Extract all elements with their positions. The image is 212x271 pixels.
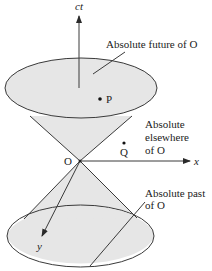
future-cone xyxy=(5,58,157,161)
origin-label: O xyxy=(64,155,72,167)
past-label-2: of O xyxy=(145,199,165,211)
past-label-1: Absolute past xyxy=(145,187,205,199)
light-cone-diagram: ct x y O P Q Absolute future of O Absolu… xyxy=(0,0,212,271)
point-p-label: P xyxy=(106,93,112,105)
origin-point xyxy=(79,160,82,163)
past-cone xyxy=(7,161,154,267)
elsewhere-label-2: elsewhere xyxy=(145,131,189,143)
future-cone-top xyxy=(5,58,157,118)
point-q-label: Q xyxy=(120,146,128,158)
y-axis-label: y xyxy=(36,240,42,252)
point-q xyxy=(122,141,125,144)
elsewhere-label-1: Absolute xyxy=(145,118,185,130)
ct-axis-label: ct xyxy=(75,0,84,12)
x-axis-label: x xyxy=(193,155,199,167)
elsewhere-label-3: of O xyxy=(145,144,165,156)
future-label: Absolute future of O xyxy=(106,38,197,50)
point-p xyxy=(98,97,102,101)
